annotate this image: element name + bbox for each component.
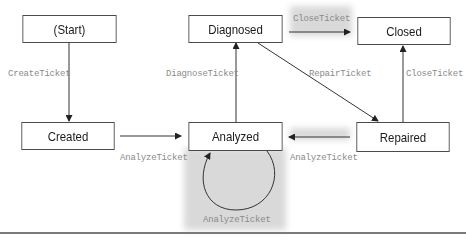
label-analyze-ticket-self: AnalyzeTicket — [203, 215, 271, 225]
label-repair-ticket: RepairTicket — [309, 69, 371, 79]
state-closed[interactable]: Closed — [357, 17, 450, 45]
state-created[interactable]: Created — [21, 122, 114, 150]
state-start[interactable]: (Start) — [22, 15, 116, 43]
bottom-divider — [0, 232, 466, 234]
state-diagram: (Start) Diagnosed Closed Created Analyze… — [0, 0, 466, 240]
label-create-ticket: CreateTicket — [8, 69, 70, 79]
state-repaired-label: Repaired — [380, 130, 426, 145]
label-analyze-ticket-from-repaired: AnalyzeTicket — [290, 153, 358, 163]
label-close-ticket-from-repaired: CloseTicket — [406, 69, 463, 79]
label-close-ticket-from-diagnosed: CloseTicket — [293, 14, 350, 24]
arrow-analyzed-self — [203, 151, 275, 210]
state-diagnosed[interactable]: Diagnosed — [188, 15, 282, 43]
arrow-diagnosed-repaired — [258, 43, 378, 121]
label-diagnose-ticket: DiagnoseTicket — [166, 69, 239, 79]
state-created-label: Created — [48, 129, 89, 144]
state-closed-label: Closed — [386, 24, 422, 39]
state-analyzed-label: Analyzed — [212, 129, 259, 144]
state-analyzed[interactable]: Analyzed — [188, 122, 282, 151]
state-repaired[interactable]: Repaired — [356, 122, 449, 152]
state-diagnosed-label: Diagnosed — [208, 22, 263, 37]
state-start-label: (Start) — [54, 22, 86, 37]
label-analyze-ticket-from-created: AnalyzeTicket — [120, 153, 188, 163]
